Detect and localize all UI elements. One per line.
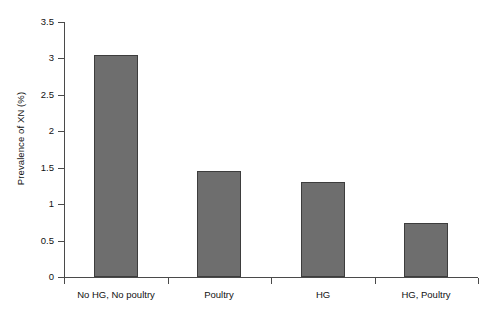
bar <box>404 223 448 277</box>
bar-chart: Prevalence of XN (%) 00.511.522.533.5 No… <box>0 0 489 313</box>
y-axis-tick <box>58 58 64 59</box>
bar <box>94 55 138 277</box>
y-axis-tick <box>58 168 64 169</box>
y-axis-line <box>64 22 65 278</box>
bar <box>197 171 241 277</box>
y-axis-tick-label: 0 <box>14 272 54 282</box>
y-axis-tick-label: 2 <box>14 126 54 136</box>
y-axis-tick-label: 0.5 <box>14 236 54 246</box>
x-axis-tick <box>271 278 272 284</box>
x-axis-tick <box>64 278 65 284</box>
y-axis-tick-label: 1 <box>14 199 54 209</box>
y-axis-tick <box>58 22 64 23</box>
x-axis-tick <box>478 278 479 284</box>
y-axis-tick <box>58 95 64 96</box>
y-axis-tick-label: 2.5 <box>14 90 54 100</box>
x-axis-category-label: Poultry <box>204 290 234 300</box>
y-axis-tick-label: 1.5 <box>14 163 54 173</box>
y-axis-tick-label: 3.5 <box>14 17 54 27</box>
y-axis-tick <box>58 204 64 205</box>
x-axis-category-label: HG, Poultry <box>401 290 450 300</box>
x-axis-tick <box>375 278 376 284</box>
y-axis-tick-label: 3 <box>14 53 54 63</box>
bar <box>301 182 345 277</box>
y-axis-tick <box>58 131 64 132</box>
x-axis-tick <box>168 278 169 284</box>
x-axis-category-label: HG <box>316 290 330 300</box>
x-axis-category-label: No HG, No poultry <box>77 290 155 300</box>
y-axis-tick <box>58 241 64 242</box>
